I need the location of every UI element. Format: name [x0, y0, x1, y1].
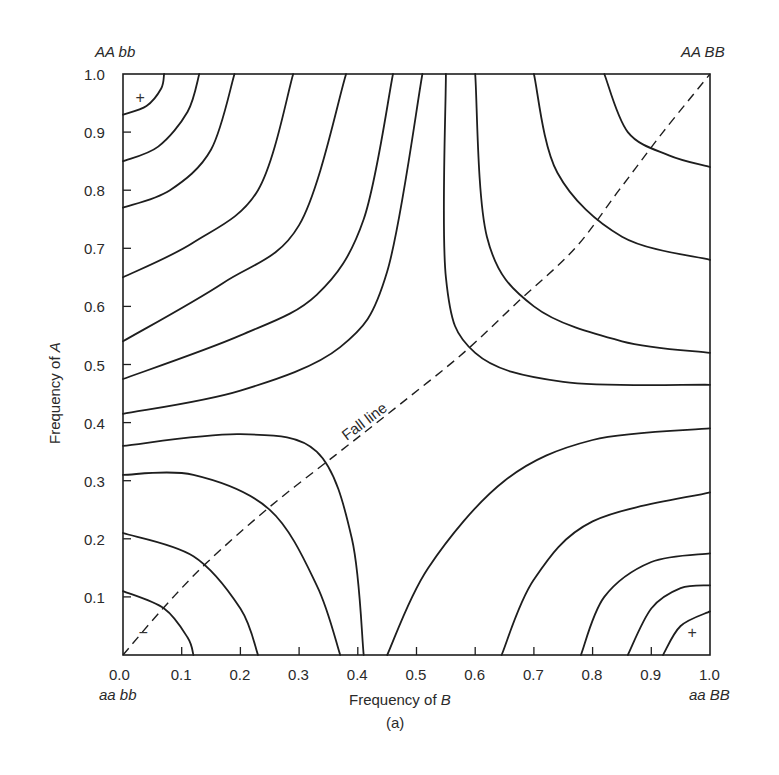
peak-plus-marker: + [687, 624, 696, 641]
y-tick-labels: 0.10.20.30.40.50.60.70.80.91.0 [84, 66, 105, 606]
x-tick-label: 0.7 [523, 666, 544, 683]
x-tick-label: 0.8 [582, 666, 603, 683]
contour-line [387, 428, 710, 655]
y-tick-label: 0.9 [84, 124, 105, 141]
y-tick-label: 0.4 [84, 415, 105, 432]
corner-label-top-right: AA BB [680, 43, 725, 60]
x-axis-title-prefix: Frequency of [349, 691, 441, 708]
contour-line [123, 74, 393, 379]
y-tick-label: 0.1 [84, 589, 105, 606]
x-axis-title: Frequency of B [349, 691, 451, 708]
y-tick-label: 0.5 [84, 357, 105, 374]
contour-lines [123, 74, 710, 655]
plot-frame [123, 74, 710, 655]
contour-line [502, 492, 710, 655]
x-tick-label: 0.5 [406, 666, 427, 683]
y-axis-title-var: A [46, 342, 63, 353]
x-tick-label: 0.9 [640, 666, 661, 683]
x-tick-label: 0.0 [109, 666, 130, 683]
contour-line [444, 74, 710, 385]
contour-line [123, 472, 340, 655]
contour-line [123, 434, 364, 655]
contour-line [123, 74, 346, 341]
x-tick-label: 1.0 [699, 666, 720, 683]
x-axis-title-var: B [441, 691, 451, 708]
y-tick-label: 0.7 [84, 240, 105, 257]
y-tick-label: 0.2 [84, 531, 105, 548]
y-axis-title-prefix: Frequency of [46, 352, 63, 444]
y-tick-label: 0.6 [84, 298, 105, 315]
y-tick-label: 0.8 [84, 182, 105, 199]
fall-line [123, 74, 710, 655]
fall-line-label: Fall line [338, 399, 390, 444]
x-tick-label: 0.2 [229, 666, 250, 683]
x-tick-labels: 0.00.10.20.30.40.50.60.70.80.91.0 [109, 666, 720, 683]
x-tick-label: 0.1 [171, 666, 192, 683]
x-tick-label: 0.3 [288, 666, 309, 683]
peak-plus-marker: + [136, 89, 145, 106]
figure-caption: (a) [386, 714, 404, 731]
corner-label-top-left: AA bb [94, 43, 135, 60]
valley-minus-marker: − [139, 624, 148, 641]
contour-line [123, 591, 193, 655]
x-tick-label: 0.6 [464, 666, 485, 683]
adaptive-landscape-chart: AA bb AA BB aa bb aa BB 0.00.10.20.30.40… [0, 0, 779, 775]
y-tick-label: 0.3 [84, 473, 105, 490]
contour-line [604, 74, 710, 167]
contour-line [475, 74, 710, 353]
contour-line [534, 74, 710, 260]
peak-markers: ++− [136, 89, 697, 641]
corner-label-bottom-right: aa BB [689, 686, 730, 703]
y-tick-label: 1.0 [84, 66, 105, 83]
axis-ticks [123, 132, 651, 655]
y-axis-title: Frequency of A [46, 342, 63, 444]
x-tick-label: 0.4 [347, 666, 368, 683]
corner-label-bottom-left: aa bb [99, 686, 137, 703]
